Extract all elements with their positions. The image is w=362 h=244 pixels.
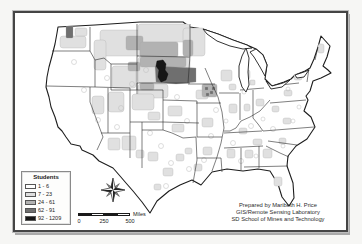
legend-swatch (25, 216, 36, 221)
legend-label: 1 - 6 (38, 183, 49, 189)
map-page: Students 1 - 6 7 - 23 24 - 61 62 - 91 92… (0, 0, 362, 244)
legend-row: 7 - 23 (25, 191, 67, 197)
compass-rose-icon (99, 176, 127, 204)
legend-label: 62 - 91 (38, 207, 55, 213)
legend-swatch (25, 208, 36, 213)
legend-label: 24 - 61 (38, 199, 55, 205)
scale-segment (104, 213, 117, 216)
credit-line: GIS/Remote Sensing Laboratory (213, 209, 343, 216)
legend-title: Students (25, 174, 67, 181)
legend-label: 7 - 23 (38, 191, 52, 197)
scale-unit-label: Miles (133, 211, 146, 217)
credit-line: Prepared by Maribeth H. Price (213, 202, 343, 209)
scale-segment (78, 213, 91, 216)
legend-row: 62 - 91 (25, 207, 67, 213)
scale-tick: 500 (125, 218, 134, 224)
legend-row: 24 - 61 (25, 199, 67, 205)
legend-row: 1 - 6 (25, 183, 67, 189)
scale-bar-segments (78, 213, 130, 216)
legend: Students 1 - 6 7 - 23 24 - 61 62 - 91 92… (21, 171, 71, 225)
legend-label: 92 - 1209 (38, 215, 61, 221)
scale-segment (91, 213, 104, 216)
scale-segment (117, 213, 130, 216)
legend-swatch (25, 184, 36, 189)
scale-bar: 0 250 500 Miles (77, 210, 147, 224)
map-credits: Prepared by Maribeth H. Price GIS/Remote… (213, 202, 343, 223)
legend-row: 92 - 1209 (25, 215, 67, 221)
credit-line: SD School of Mines and Technology (213, 216, 343, 223)
legend-swatch (25, 192, 36, 197)
scale-tick: 250 (99, 218, 108, 224)
scale-tick: 0 (77, 218, 80, 224)
legend-swatch (25, 200, 36, 205)
